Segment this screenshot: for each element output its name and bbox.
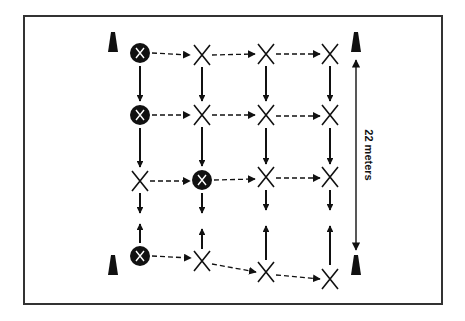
player-x-icon bbox=[258, 262, 274, 282]
player-x-icon bbox=[194, 105, 210, 125]
player-ball-icon bbox=[130, 43, 150, 63]
diagram-canvas: 22 meters bbox=[0, 0, 465, 321]
cone-icon bbox=[351, 32, 361, 52]
cone-icon bbox=[108, 32, 118, 52]
measurement-label: 22 meters bbox=[363, 129, 375, 180]
player-x-icon bbox=[322, 269, 338, 289]
pass-arrow bbox=[212, 264, 256, 272]
pass-arrow bbox=[152, 53, 190, 55]
player-ball-icon bbox=[130, 246, 150, 266]
pass-lines bbox=[150, 53, 320, 279]
player-ball-icon bbox=[130, 105, 150, 125]
cone-icon bbox=[108, 255, 118, 275]
drill-diagram: 22 meters bbox=[0, 0, 465, 321]
player-x-icon bbox=[194, 45, 210, 65]
player-ball-icon bbox=[192, 170, 212, 190]
pass-arrow bbox=[212, 54, 255, 55]
run-lines bbox=[140, 66, 330, 265]
player-x-icon bbox=[132, 171, 148, 191]
pass-arrow bbox=[276, 275, 320, 279]
player-x-icon bbox=[322, 167, 338, 187]
field-frame bbox=[24, 16, 442, 304]
cone-icon bbox=[351, 255, 361, 275]
pass-arrow bbox=[152, 256, 191, 258]
player-x-icon bbox=[194, 251, 210, 271]
player-x-icon bbox=[258, 167, 274, 187]
pass-arrow bbox=[214, 179, 255, 180]
player-x-icon bbox=[258, 105, 274, 125]
player-x-icon bbox=[258, 44, 274, 64]
cones bbox=[108, 32, 361, 275]
measurement-arrow: 22 meters bbox=[356, 60, 375, 250]
player-x-icon bbox=[322, 105, 338, 125]
player-x-icon bbox=[322, 44, 338, 64]
players bbox=[130, 43, 338, 289]
